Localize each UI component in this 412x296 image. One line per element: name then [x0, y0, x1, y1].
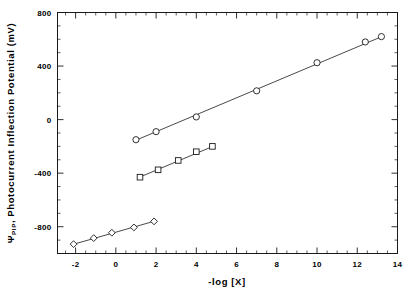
y-axis-title-symbol: Ψ: [5, 235, 16, 243]
y-axis-title-text: , Photocurrent Inflection Potential (mV): [5, 23, 16, 223]
data-point-square: [194, 149, 200, 155]
y-axis-ticks: [58, 13, 398, 254]
y-axis-title: ΨPIP, Photocurrent Inflection Potential …: [5, 23, 17, 243]
y-axis-tick-labels: -800-4000400800: [34, 9, 51, 232]
x-tick-label: 10: [312, 260, 322, 269]
y-tick-label: 0: [47, 116, 52, 125]
series-fit-lines: [72, 36, 384, 245]
x-tick-label: 8: [274, 260, 279, 269]
x-tick-label: 14: [393, 260, 403, 269]
data-point-diamond: [90, 235, 97, 242]
x-tick-label: 12: [353, 260, 363, 269]
chart-figure: -202468101214 -800-4000400800 -log [X] Ψ…: [0, 0, 412, 296]
x-axis-title: -log [X]: [208, 276, 246, 287]
data-point-circle: [133, 137, 139, 143]
data-point-square: [137, 174, 143, 180]
data-point-circle: [254, 88, 260, 94]
data-point-square: [210, 144, 216, 150]
data-point-circle: [314, 60, 320, 66]
data-point-circle: [362, 39, 368, 45]
y-tick-label: -800: [34, 223, 51, 232]
photocurrent-inflection-potential-plot: -202468101214 -800-4000400800 -log [X] Ψ…: [0, 0, 412, 296]
data-point-circle: [193, 114, 199, 120]
x-axis-ticks: [66, 13, 398, 254]
data-point-diamond: [70, 241, 77, 248]
x-tick-label: 6: [234, 260, 239, 269]
svg-text:ΨPIP, Photocurrent Inflection: ΨPIP, Photocurrent Inflection Potential …: [5, 23, 17, 243]
y-tick-label: 800: [37, 9, 51, 18]
data-point-square: [175, 158, 181, 164]
x-tick-label: 0: [113, 260, 118, 269]
series-data-markers: [70, 34, 384, 248]
y-tick-label: -400: [34, 169, 51, 178]
x-tick-label: 2: [154, 260, 159, 269]
data-point-circle: [153, 129, 159, 135]
data-point-circle: [378, 34, 384, 40]
x-tick-label: -2: [72, 260, 80, 269]
data-point-square: [155, 167, 161, 173]
y-axis-title-subscript: PIP: [10, 223, 17, 235]
data-point-diamond: [151, 218, 158, 225]
plot-frame: [58, 13, 398, 254]
x-tick-label: 4: [194, 260, 199, 269]
y-tick-label: 400: [37, 62, 51, 71]
data-point-diamond: [131, 224, 138, 231]
data-point-diamond: [108, 229, 115, 236]
x-axis-tick-labels: -202468101214: [72, 260, 403, 269]
